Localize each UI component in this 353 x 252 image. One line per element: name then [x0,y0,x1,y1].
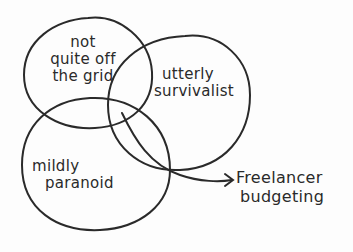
set-label-mildly-paranoid: mildly paranoid [32,158,114,192]
circle-utterly-survivalist [108,36,250,170]
label-line: mildly [32,158,114,175]
callout-label-freelancer-budgeting: Freelancer budgeting [236,168,324,206]
label-line: not [38,34,128,51]
label-line: Freelancer [236,168,324,187]
label-line: survivalist [154,83,234,100]
label-line: utterly [154,66,234,83]
label-line: budgeting [236,187,324,206]
label-line: paranoid [32,175,114,192]
set-label-utterly-survivalist: utterly survivalist [154,66,234,100]
label-line: quite off [38,51,128,68]
label-line: the grid [38,68,128,85]
venn-diagram-canvas: not quite off the grid utterly survivali… [0,0,353,252]
set-label-not-quite-off-the-grid: not quite off the grid [38,34,128,85]
